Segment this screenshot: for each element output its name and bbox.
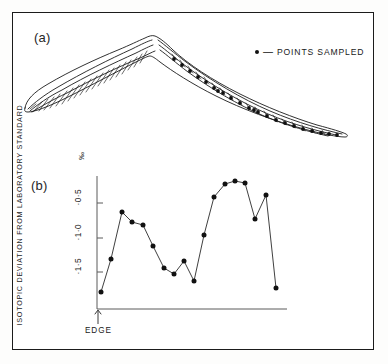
figure-root: (a) — POINTS SAMPLED (b) ISOTOPIC DEVIAT… xyxy=(0,0,388,364)
sampled-point xyxy=(274,118,278,122)
y-tick-label-2: ·1·5 xyxy=(73,258,83,288)
sampled-point xyxy=(319,131,323,135)
edge-annotation-label: EDGE xyxy=(85,326,112,335)
sampled-point xyxy=(238,101,242,105)
sampled-point xyxy=(310,129,314,133)
sampled-point xyxy=(212,86,216,90)
sampled-point xyxy=(188,69,192,73)
sampled-point xyxy=(247,106,251,110)
y-axis-title: ISOTOPIC DEVIATION FROM LABORATORY STAND… xyxy=(15,156,24,326)
shell-hatching-left xyxy=(30,51,147,111)
sampled-point xyxy=(204,80,208,84)
shell-outline-svg xyxy=(12,12,374,147)
legend: — POINTS SAMPLED xyxy=(255,47,364,57)
sampled-point xyxy=(327,132,331,136)
y-axis-units: ‰ xyxy=(77,152,86,160)
y-tick-label-1: ·1·0 xyxy=(73,224,83,254)
panel-a-shell-drawing xyxy=(12,12,374,147)
panel-b-label: (b) xyxy=(31,178,48,193)
y-tick-label-0: ·0·5 xyxy=(73,189,83,219)
sampled-point xyxy=(196,75,200,79)
panel-a-label: (a) xyxy=(34,30,51,45)
sampled-point xyxy=(252,108,256,112)
sampled-point xyxy=(229,96,233,100)
sampled-point xyxy=(221,91,225,95)
shell-growth-band-right-2 xyxy=(159,45,336,135)
legend-label: POINTS SAMPLED xyxy=(277,47,364,57)
legend-marker-icon xyxy=(255,50,259,54)
sampled-point xyxy=(172,57,176,61)
legend-dash-icon: — xyxy=(263,47,273,57)
sampled-point xyxy=(301,127,305,131)
sampled-point xyxy=(283,121,287,125)
sampled-point xyxy=(292,124,296,128)
sampled-point xyxy=(265,114,269,118)
sampled-point xyxy=(335,133,339,137)
sampled-point xyxy=(180,63,184,67)
sampled-point xyxy=(256,110,260,114)
sampled-point xyxy=(216,89,220,93)
shell-growth-band-left-2 xyxy=(30,45,153,111)
